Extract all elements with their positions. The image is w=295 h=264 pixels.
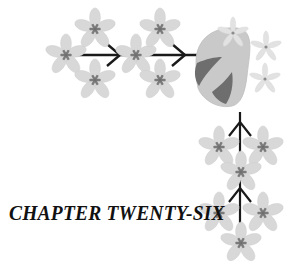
chapter-title: CHAPTER TWENTY-SIX [9,199,209,228]
flower-bud [195,28,250,107]
blossom-small-2 [250,31,282,62]
blossom-h-upper-1 [73,8,116,49]
blossom-v-left-1 [197,126,240,167]
blossom-h-upper-2 [138,8,181,49]
blossom-h-lower-1 [73,59,116,100]
blossom-small-3 [249,63,281,94]
